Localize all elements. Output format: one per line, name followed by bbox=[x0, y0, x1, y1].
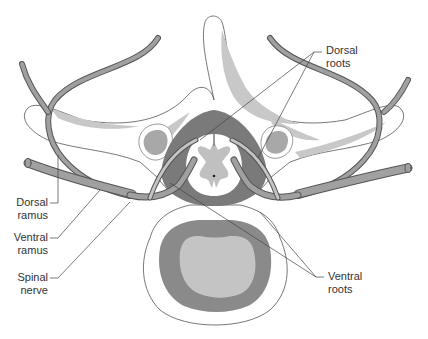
label-dorsal-ramus: Dorsal ramus bbox=[8, 196, 48, 221]
label-dorsal-roots: Dorsal roots bbox=[326, 44, 358, 69]
spinal-nerve-diagram bbox=[0, 0, 428, 339]
label-spinal-nerve: Spinal nerve bbox=[8, 271, 48, 296]
label-ventral-roots: Ventral roots bbox=[328, 270, 362, 295]
label-ventral-ramus: Ventral ramus bbox=[6, 231, 48, 256]
leader-spinal-nerve bbox=[50, 202, 130, 278]
vertebral-body-cancellous bbox=[180, 236, 256, 298]
leader-ventral-ramus bbox=[50, 190, 100, 238]
leader-dorsal-ramus bbox=[50, 155, 58, 203]
central-canal bbox=[213, 175, 216, 178]
